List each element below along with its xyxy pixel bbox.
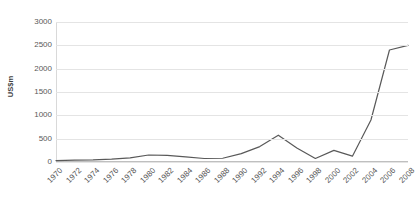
series-polyline <box>56 45 408 160</box>
y-axis-tick-label: 2000 <box>18 65 52 73</box>
gridline <box>56 115 408 116</box>
y-axis-tick-label: 1000 <box>18 111 52 119</box>
y-axis-tick-label: 1500 <box>18 88 52 96</box>
y-axis-tick-labels: 050010001500200025003000 <box>14 0 52 201</box>
gridline <box>56 69 408 70</box>
y-axis-tick-label: 500 <box>18 135 52 143</box>
y-axis-tick-label: 2500 <box>18 41 52 49</box>
y-axis-tick-label: 0 <box>18 158 52 166</box>
gridline <box>56 139 408 140</box>
plot-area <box>56 22 408 162</box>
gridline <box>56 92 408 93</box>
line-chart: US$m 050010001500200025003000 1970197219… <box>0 0 419 201</box>
gridline <box>56 45 408 46</box>
gridline <box>56 22 408 23</box>
x-axis-tick-labels: 1970197219741976197819801982198419861988… <box>56 162 408 201</box>
y-axis-tick-label: 3000 <box>18 18 52 26</box>
